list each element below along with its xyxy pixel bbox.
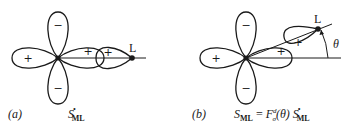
panel-a: − − + + + L (a) S•ML (8, 12, 146, 123)
sign-ligand-b: + (293, 36, 302, 49)
metal-center-a (55, 55, 60, 60)
formula-b-lhs-sub: ML (240, 114, 253, 123)
sign-right-b: + (276, 45, 285, 58)
sign-bottom-b: − (241, 82, 250, 95)
ligand-label-a: L (129, 41, 136, 55)
sign-left-b: + (211, 52, 220, 65)
panel-tag-b: (b) (192, 107, 206, 121)
panel-b: − − + + + L θ (b) SML = Fdσ(θ) S•ML (192, 12, 341, 123)
formula-a-sub: ML (72, 114, 85, 123)
orbital-overlap-diagram: − − + + + L (a) S•ML − − + + + L θ (b) (0, 0, 350, 129)
formula-b-eq: = (253, 107, 266, 121)
d-lobe-left-b (200, 48, 246, 68)
ligand-atom-a (129, 55, 135, 61)
d-lobe-bottom-a (48, 58, 68, 104)
formula-a-star: • (73, 105, 76, 114)
sign-ligand-a: + (103, 46, 112, 59)
sign-top-b: − (241, 19, 250, 32)
metal-center-b (243, 55, 248, 60)
sign-top-a: − (53, 19, 62, 32)
angle-label: θ (333, 37, 339, 51)
formula-b-rhs-star: • (298, 105, 301, 114)
formula-b-arg: (θ) (276, 107, 293, 121)
ligand-atom-b (315, 26, 321, 32)
formula-b: SML = Fdσ(θ) S•ML (234, 105, 310, 123)
d-lobe-bottom-b (236, 58, 256, 104)
sign-left-a: + (23, 52, 32, 65)
panel-tag-a: (a) (8, 107, 22, 121)
formula-a: S•ML (68, 105, 85, 123)
ligand-label-b: L (314, 12, 321, 26)
formula-b-rhs-sub: ML (297, 114, 310, 123)
d-lobe-left-a (12, 48, 58, 68)
sign-bottom-a: − (53, 82, 62, 95)
sign-right-a: + (83, 45, 92, 58)
